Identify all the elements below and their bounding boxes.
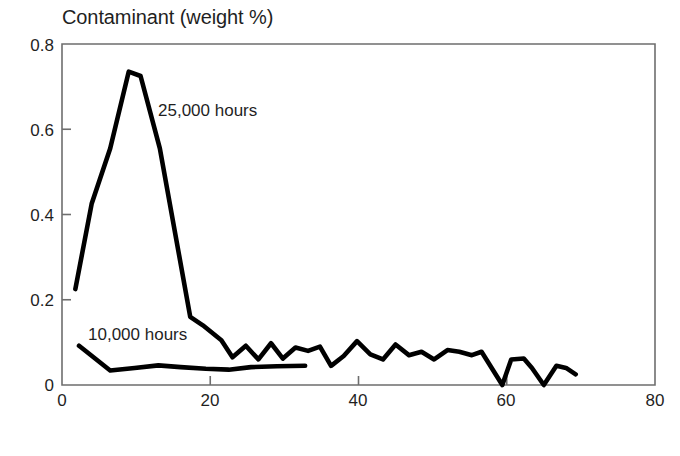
y-axis-tick-labels: 0.8 0.6 0.4 0.2 0 bbox=[0, 0, 54, 456]
y-tick-label-2: 0.4 bbox=[6, 207, 54, 224]
x-tick-label-0: 0 bbox=[32, 392, 92, 409]
series-annotation-10000-hours: 10,000 hours bbox=[88, 325, 187, 344]
y-tick-label-0: 0.8 bbox=[6, 37, 54, 54]
x-tick-label-3: 60 bbox=[476, 392, 536, 409]
chart-title: Contaminant (weight %) bbox=[62, 4, 273, 30]
x-tick-label-2: 40 bbox=[328, 392, 388, 409]
x-tick-label-4: 80 bbox=[625, 392, 680, 409]
series-line-10-000-hours bbox=[79, 346, 305, 371]
axis-ticks bbox=[62, 129, 507, 385]
chart-figure: Contaminant (weight %) 0.8 0.6 0.4 0.2 0… bbox=[0, 0, 680, 456]
y-tick-label-1: 0.6 bbox=[6, 122, 54, 139]
x-tick-label-1: 20 bbox=[180, 392, 240, 409]
series-annotation-25000-hours: 25,000 hours bbox=[158, 101, 257, 120]
plot-area bbox=[0, 0, 680, 456]
y-tick-label-3: 0.2 bbox=[6, 292, 54, 309]
